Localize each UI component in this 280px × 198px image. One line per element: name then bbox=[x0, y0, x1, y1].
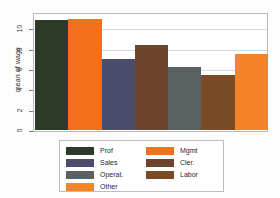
bar-other bbox=[235, 54, 268, 130]
legend-label: Cler. bbox=[180, 159, 194, 167]
legend-item: Cler. bbox=[146, 157, 198, 168]
y-axis-tick-label: 8 bbox=[16, 41, 23, 57]
y-axis-tick bbox=[29, 50, 33, 51]
y-axis-tick-label: 10 bbox=[16, 21, 23, 37]
y-axis-tick bbox=[29, 70, 33, 71]
legend-column-right: MgmtCler.Labor bbox=[146, 145, 198, 181]
bar-series bbox=[35, 15, 266, 130]
bar-operat bbox=[168, 67, 201, 130]
legend-item: Sales bbox=[66, 157, 123, 168]
legend-item: Other bbox=[66, 181, 123, 192]
y-axis-tick-label: 2 bbox=[16, 102, 23, 118]
legend-label: Other bbox=[100, 183, 118, 191]
bar-mgmt bbox=[68, 19, 101, 130]
bar-prof bbox=[35, 20, 68, 130]
legend-label: Labor bbox=[180, 171, 198, 179]
y-axis-tick-label: 4 bbox=[16, 82, 23, 98]
bar-sales bbox=[102, 59, 135, 130]
legend-item: Mgmt bbox=[146, 145, 198, 156]
legend-column-left: ProfSalesOperat.Other bbox=[66, 145, 123, 193]
y-axis-tick-label: 6 bbox=[16, 61, 23, 77]
bar-cler bbox=[135, 45, 168, 130]
legend-item: Prof bbox=[66, 145, 123, 156]
y-axis-tick bbox=[29, 90, 33, 91]
legend-swatch-icon bbox=[146, 171, 174, 179]
legend-swatch-icon bbox=[146, 147, 174, 155]
bar-chart-figure: mean of wage ProfSalesOperat.Other MgmtC… bbox=[0, 0, 280, 198]
legend-item: Operat. bbox=[66, 169, 123, 180]
legend-swatch-icon bbox=[66, 159, 94, 167]
legend-swatch-icon bbox=[146, 159, 174, 167]
legend-swatch-icon bbox=[66, 183, 94, 191]
bar-labor bbox=[201, 75, 234, 130]
legend-label: Prof bbox=[100, 147, 113, 155]
y-axis-tick bbox=[29, 111, 33, 112]
legend-label: Operat. bbox=[100, 171, 123, 179]
plot-area bbox=[33, 13, 268, 132]
legend-item: Labor bbox=[146, 169, 198, 180]
legend-label: Sales bbox=[100, 159, 118, 167]
legend-swatch-icon bbox=[66, 147, 94, 155]
legend-label: Mgmt bbox=[180, 147, 198, 155]
y-axis-tick-label: 0 bbox=[16, 123, 23, 139]
legend-swatch-icon bbox=[66, 171, 94, 179]
chart-legend: ProfSalesOperat.Other MgmtCler.Labor bbox=[59, 140, 224, 192]
y-axis-tick bbox=[29, 131, 33, 132]
y-axis-tick bbox=[29, 29, 33, 30]
